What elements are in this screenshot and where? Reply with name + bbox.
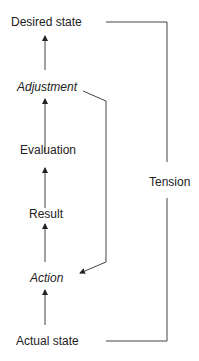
node-action: Action (30, 271, 63, 285)
node-result: Result (29, 207, 63, 221)
tension-label: Tension (149, 175, 190, 189)
node-adjustment: Adjustment (17, 80, 77, 94)
node-desired-state: Desired state (11, 15, 82, 29)
node-evaluation: Evaluation (20, 143, 76, 157)
node-actual-state: Actual state (16, 334, 79, 348)
